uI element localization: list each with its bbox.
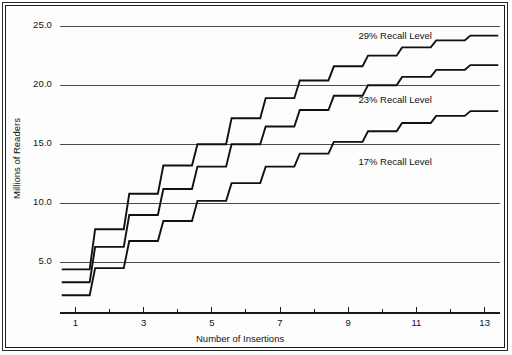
y-tick-label: 10.0 (12, 196, 52, 207)
series-step-line-0 (62, 36, 499, 270)
x-tick-label: 7 (268, 317, 292, 328)
x-axis-title: Number of Insertions (196, 333, 284, 344)
step-line-chart (0, 0, 512, 355)
x-tick-label: 1 (63, 317, 87, 328)
series-annotation-2: 17% Recall Level (358, 156, 431, 167)
x-tick-label: 3 (132, 317, 156, 328)
x-tick-label: 5 (200, 317, 224, 328)
series-annotation-1: 23% Recall Level (358, 94, 431, 105)
y-tick-label: 5.0 (12, 255, 52, 266)
y-tick-label: 15.0 (12, 137, 52, 148)
x-tick-label: 13 (473, 317, 497, 328)
x-tick-label: 9 (336, 317, 360, 328)
y-tick-label: 25.0 (12, 19, 52, 30)
y-tick-label: 20.0 (12, 78, 52, 89)
chart-plot-area: Millions of Readers Number of Insertions… (0, 0, 512, 355)
series-annotation-0: 29% Recall Level (358, 30, 431, 41)
chart-screenshot: Millions of Readers Number of Insertions… (0, 0, 512, 355)
x-tick-label: 11 (404, 317, 428, 328)
